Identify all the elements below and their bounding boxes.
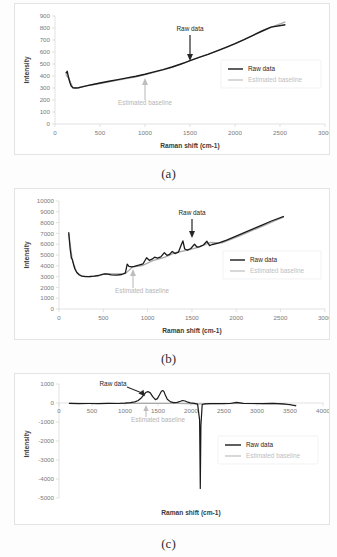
- panel-a-x-tick-1000: 1000: [138, 124, 152, 136]
- panel-b-y-axis: 10000 9000 8000 7000 6000 5000 4000 3000…: [23, 197, 59, 312]
- panel-b-y-tick-1000: 1000: [40, 294, 59, 301]
- panel-c-annotation-raw-data: Raw data: [100, 380, 148, 396]
- panel-c-x-tick-0: 0: [57, 403, 61, 414]
- panel-c-svg: 1000 0 -1000 -2000 -3000 -4000 -5000 Int…: [15, 374, 329, 524]
- panel-c: 1000 0 -1000 -2000 -3000 -4000 -5000 Int…: [0, 370, 337, 555]
- panel-b-y-tick-8000: 8000: [40, 219, 59, 226]
- panel-b-caption: (b): [0, 351, 337, 367]
- panel-a-xtick-label: 2000: [228, 129, 242, 136]
- panel-b-y-tick-6000: 6000: [40, 240, 59, 247]
- panel-c-xtick-label: 0: [57, 407, 61, 414]
- panel-a-xtick-label: 2500: [273, 129, 287, 136]
- panel-c-xtick-label: 3500: [283, 407, 297, 414]
- panel-a-ytick-label: 600: [40, 48, 51, 55]
- panel-a-xtick-label: 3000: [318, 129, 329, 136]
- panel-a-ytick-label: 400: [40, 72, 51, 79]
- panel-a-x-tick-2000: 2000: [228, 124, 242, 136]
- panel-b-ytick-label: 8000: [40, 219, 54, 226]
- panel-b-legend-raw-label: Raw data: [250, 256, 277, 263]
- panel-b-x-tick-3000: 3000: [318, 309, 329, 321]
- panel-c-legend: Raw data Estimated baseline: [218, 436, 318, 464]
- panel-b-x-tick-1000: 1000: [141, 309, 155, 321]
- panel-b-ytick-label: 2000: [40, 284, 54, 291]
- panel-b-xlabel: Raman shift (cm-1): [162, 327, 221, 335]
- panel-a-x-tick-2500: 2500: [273, 124, 287, 136]
- panel-b-ylabel: Intensity: [23, 241, 31, 268]
- panel-c-ylabel: Intensity: [23, 430, 31, 457]
- panel-a-annotation-raw-data: Raw data: [177, 25, 204, 61]
- panel-c-xtick-label: 4000: [316, 407, 329, 414]
- panel-b-y-tick-5000: 5000: [40, 251, 59, 258]
- panel-a-x-tick-500: 500: [95, 124, 106, 136]
- panel-b-annotation-estimated-baseline: Estimated baseline: [115, 269, 169, 294]
- panel-a-y-tick-300: 300: [40, 84, 55, 91]
- panel-c-xtick-label: 1500: [151, 407, 165, 414]
- panel-a-y-tick-800: 800: [40, 24, 55, 31]
- panel-a-y-tick-600: 600: [40, 48, 55, 55]
- panel-a-xtick-label: 1000: [138, 129, 152, 136]
- panel-c-y-axis: 1000 0 -1000 -2000 -3000 -4000 -5000 Int…: [23, 380, 59, 501]
- panel-a-baseline-annot-label: Estimated baseline: [118, 99, 172, 106]
- panel-b-y-tick-7000: 7000: [40, 230, 59, 237]
- panel-c-ytick-label: -4000: [38, 475, 54, 482]
- panel-c-xtick-label: 500: [87, 407, 98, 414]
- panel-b-xtick-label: 1500: [185, 314, 199, 321]
- panel-c-ytick-label: -5000: [38, 494, 54, 501]
- panel-c-y-tick-neg5000: -5000: [38, 494, 59, 501]
- panel-a-legend: Raw data Estimated baseline: [221, 60, 321, 88]
- panel-c-plot-area: 1000 0 -1000 -2000 -3000 -4000 -5000 Int…: [14, 373, 330, 525]
- panel-b-raw-annot-label: Raw data: [179, 209, 206, 216]
- panel-a-legend-raw-label: Raw data: [248, 65, 275, 72]
- panel-b-ytick-label: 1000: [40, 294, 54, 301]
- panel-a-y-tick-700: 700: [40, 36, 55, 43]
- panel-a-svg: 900 800 700 600 500 400 300 200 100 0 In…: [15, 4, 329, 154]
- panel-b-x-tick-2000: 2000: [229, 309, 243, 321]
- panel-c-legend-raw-label: Raw data: [246, 441, 273, 448]
- panel-c-x-tick-4000: 4000: [316, 403, 329, 414]
- panel-c-raw-annot-label: Raw data: [100, 380, 127, 387]
- panel-b-y-tick-10000: 10000: [37, 197, 59, 204]
- panel-b-ytick-label: 5000: [40, 251, 54, 258]
- panel-b-x-tick-500: 500: [98, 309, 109, 321]
- panel-b-ytick-label: 4000: [40, 262, 54, 269]
- panel-b-y-tick-2000: 2000: [40, 284, 59, 291]
- panel-a-ytick-label: 0: [47, 120, 51, 127]
- panel-a-y-tick-0: 0: [47, 120, 55, 127]
- panel-a-ytick-label: 500: [40, 60, 51, 67]
- panel-a-legend-baseline-label: Estimated baseline: [248, 76, 302, 83]
- panel-a-plot-area: 900 800 700 600 500 400 300 200 100 0 In…: [14, 3, 330, 155]
- panel-b-ytick-label: 7000: [40, 230, 54, 237]
- panel-a-ytick-label: 200: [40, 96, 51, 103]
- panel-c-legend-baseline-label: Estimated baseline: [246, 452, 300, 459]
- panel-b-legend-baseline-label: Estimated baseline: [250, 267, 304, 274]
- panel-c-x-tick-1000: 1000: [118, 403, 132, 414]
- panel-b-ytick-label: 0: [51, 305, 55, 312]
- panel-c-xlabel: Raman shift (cm-1): [161, 509, 220, 517]
- panel-c-ytick-label: -1000: [38, 418, 54, 425]
- panel-a-xtick-label: 0: [53, 129, 57, 136]
- panel-a-ytick-label: 300: [40, 84, 51, 91]
- panel-b-y-tick-9000: 9000: [40, 208, 59, 215]
- panel-a-y-axis: 900 800 700 600 500 400 300 200 100 0 In…: [23, 12, 55, 127]
- panel-c-ytick-label: -3000: [38, 456, 54, 463]
- panel-c-ytick-label: 0: [51, 399, 55, 406]
- panel-b-legend: Raw data Estimated baseline: [223, 251, 321, 279]
- panel-b-baseline-annot-label: Estimated baseline: [115, 287, 169, 294]
- panel-a-ytick-label: 800: [40, 24, 51, 31]
- panel-a-raw-annot-label: Raw data: [177, 25, 204, 32]
- panel-b-xtick-label: 0: [57, 314, 61, 321]
- panel-b-plot-area: 10000 9000 8000 7000 6000 5000 4000 3000…: [14, 188, 330, 340]
- panel-b-xtick-label: 1000: [141, 314, 155, 321]
- panel-c-x-tick-3000: 3000: [250, 403, 264, 414]
- panel-c-y-tick-1000: 1000: [40, 380, 59, 387]
- panel-a-xtick-label: 1500: [183, 129, 197, 136]
- panel-b-x-tick-2500: 2500: [274, 309, 288, 321]
- panel-b-ytick-label: 9000: [40, 208, 54, 215]
- panel-a-y-tick-200: 200: [40, 96, 55, 103]
- panel-a-ylabel: Intensity: [23, 56, 31, 83]
- panel-c-ytick-label: -2000: [38, 437, 54, 444]
- panel-a-y-tick-400: 400: [40, 72, 55, 79]
- panel-a-x-tick-3000: 3000: [318, 124, 329, 136]
- panel-b-x-tick-1500: 1500: [185, 309, 199, 321]
- panel-a-ytick-label: 700: [40, 36, 51, 43]
